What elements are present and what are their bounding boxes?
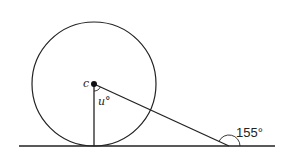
center-label: c [83,77,89,90]
slant-segment [94,84,229,146]
angle-u-label: u° [98,95,111,108]
geometry-diagram: c u° 155° [0,0,285,160]
center-point [91,81,97,87]
angle-u-arc [94,87,100,91]
angle-155-label: 155° [236,125,263,140]
